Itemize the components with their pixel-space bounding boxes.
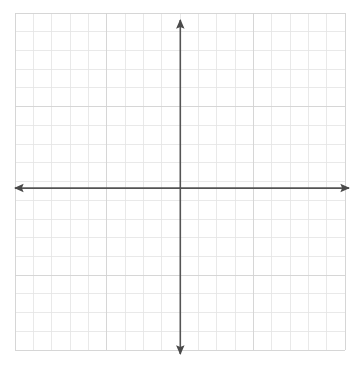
origin-point <box>179 187 181 189</box>
worksheet-page: Empty Cartesian coordinate plane with sq… <box>0 0 359 369</box>
coordinate-plane-figure <box>0 0 359 369</box>
